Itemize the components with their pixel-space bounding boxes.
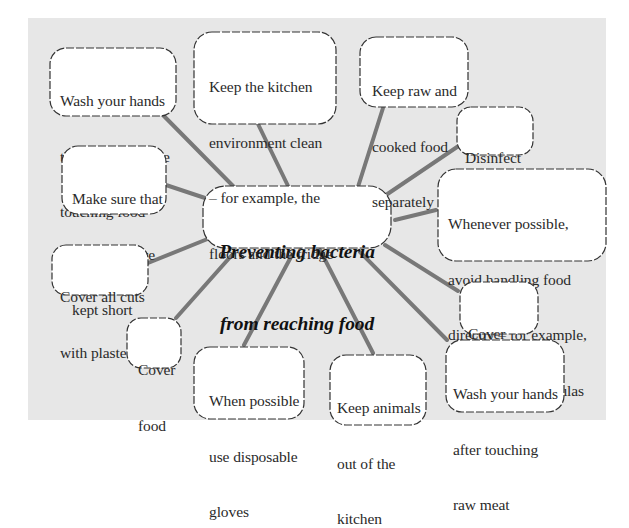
node-cover-food: Cover food: [125, 316, 183, 370]
node-disinfect-surfaces: Disinfect surfaces: [455, 105, 535, 157]
node-text-line: – for example, the: [209, 189, 333, 208]
node-text-line: Keep raw and: [372, 82, 457, 101]
node-text-line: Whenever possible,: [448, 215, 587, 234]
node-text-line: Cover: [138, 361, 175, 380]
node-text-line: Make sure that: [72, 190, 163, 209]
node-nails-short: Make sure that your nails are kept short: [60, 144, 168, 216]
node-text-line: Cover all cuts: [60, 288, 145, 307]
node-text-line: food: [138, 417, 175, 436]
node-text-line: When possible: [209, 392, 299, 411]
node-text-line: Wash your hands: [453, 385, 558, 404]
node-text-line: use disposable: [209, 448, 299, 467]
node-text-line: after touching: [453, 441, 558, 460]
node-cover-hair: Cover your hair: [458, 280, 540, 336]
node-text-line: raw meat: [453, 496, 558, 515]
node-text-line: Keep animals: [337, 399, 421, 418]
node-avoid-handling: Whenever possible, avoid handling food d…: [436, 167, 608, 263]
node-cover-cuts: Cover all cuts with plasters: [50, 243, 150, 297]
node-raw-cooked-separate: Keep raw and cooked food separately: [358, 35, 470, 109]
node-text-line: Wash your hands: [60, 92, 170, 111]
node-text-line: out of the: [337, 455, 421, 474]
node-text-line: Keep the kitchen: [209, 78, 333, 97]
node-kitchen-clean: Keep the kitchen environment clean – for…: [192, 30, 338, 126]
node-wash-hands-after-meat: Wash your hands after touching raw meat: [444, 338, 566, 414]
node-text-line: cooked food: [372, 138, 457, 157]
node-text-line: gloves: [209, 503, 299, 522]
node-disposable-gloves: When possible use disposable gloves: [192, 345, 306, 421]
node-text-line: environment clean: [209, 134, 333, 153]
node-text-line: floors and the fridge: [209, 245, 333, 264]
node-text-line: kitchen: [337, 510, 421, 528]
node-wash-hands-before: Wash your hands thoroughly before touchi…: [48, 46, 178, 118]
node-animals-out: Keep animals out of the kitchen: [328, 353, 428, 427]
node-text-line: Disinfect: [465, 149, 521, 168]
center-topic-line2: from reaching food: [199, 312, 395, 336]
